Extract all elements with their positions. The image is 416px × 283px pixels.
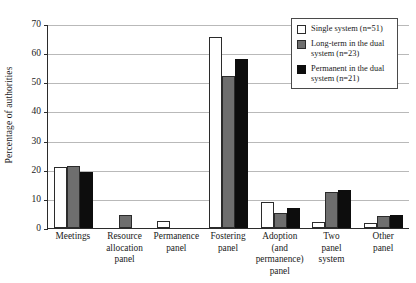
bar-single[interactable] [157,221,170,228]
y-tick-label: 20 [32,166,42,176]
x-axis-label: Twopanelsystem [306,231,358,277]
bar-slot [170,25,183,228]
legend-swatch-permanent [297,65,306,74]
y-tick-label: 50 [32,79,42,89]
bar-single[interactable] [54,167,67,228]
y-tick-label: 30 [32,137,42,147]
legend-label: Permanent in the dual system (n=21) [311,64,392,84]
bar-group [100,25,152,228]
bar-longterm[interactable] [222,76,235,228]
legend-swatch-single [297,25,306,34]
bar-slot [209,25,222,228]
bar-permanent[interactable] [287,208,300,228]
bar-slot [54,25,67,228]
bar-slot [183,25,196,228]
bar-chart: Percentage of authorities 70605040302010… [0,0,416,283]
bar-single[interactable] [209,37,222,228]
y-axis-title: Percentage of authorities [0,0,18,230]
legend-swatch-longterm [297,40,306,49]
y-tick-label: 10 [32,195,42,205]
bar-single[interactable] [364,223,377,228]
bar-slot [67,25,80,228]
bar-longterm[interactable] [119,215,132,228]
y-axis-tick-labels: 706050403020100 [18,25,44,229]
gridline [48,229,409,230]
bar-longterm[interactable] [274,213,287,228]
x-axis-label: Adoption (andpermanence)panel [254,231,306,277]
legend-item[interactable]: Permanent in the dual system (n=21) [297,64,392,84]
bar-slot [119,25,132,228]
bar-slot [106,25,119,228]
bar-slot [157,25,170,228]
y-axis-title-text: Percentage of authorities [4,67,14,164]
bar-longterm[interactable] [377,216,390,228]
bar-single[interactable] [261,202,274,228]
bar-single[interactable] [312,222,325,228]
x-axis-label: Fosteringpanel [202,231,254,277]
bar-slot [261,25,274,228]
bar-group [151,25,203,228]
x-axis-label: Permanencepanel [150,231,202,277]
legend: Single system (n=51)Long-term in the dua… [291,18,398,89]
bar-slot [132,25,145,228]
legend-item[interactable]: Single system (n=51) [297,24,392,34]
legend-label: Single system (n=51) [311,24,383,34]
y-tick-label: 40 [32,108,42,118]
x-axis-label: Otherpanel [357,231,409,277]
bar-slot [235,25,248,228]
y-axis-tick-mark [44,229,48,230]
x-axis-category-labels: MeetingsResourceallocationpanelPermanenc… [47,231,409,277]
bar-slot [80,25,93,228]
bar-group [48,25,100,228]
bar-longterm[interactable] [67,166,80,228]
bar-permanent[interactable] [80,172,93,228]
y-tick-label: 70 [32,20,42,30]
legend-item[interactable]: Long-term in the dual system (n=23) [297,39,392,59]
bar-permanent[interactable] [390,215,403,228]
bar-slot [274,25,287,228]
bar-longterm[interactable] [325,192,338,228]
x-axis-label: Meetings [47,231,99,277]
legend-label: Long-term in the dual system (n=23) [311,39,392,59]
y-tick-label: 60 [32,49,42,59]
x-axis-label: Resourceallocationpanel [99,231,151,277]
bar-slot [222,25,235,228]
bar-permanent[interactable] [338,190,351,228]
bar-group [203,25,255,228]
y-tick-label: 0 [36,224,41,234]
bar-permanent[interactable] [235,59,248,228]
